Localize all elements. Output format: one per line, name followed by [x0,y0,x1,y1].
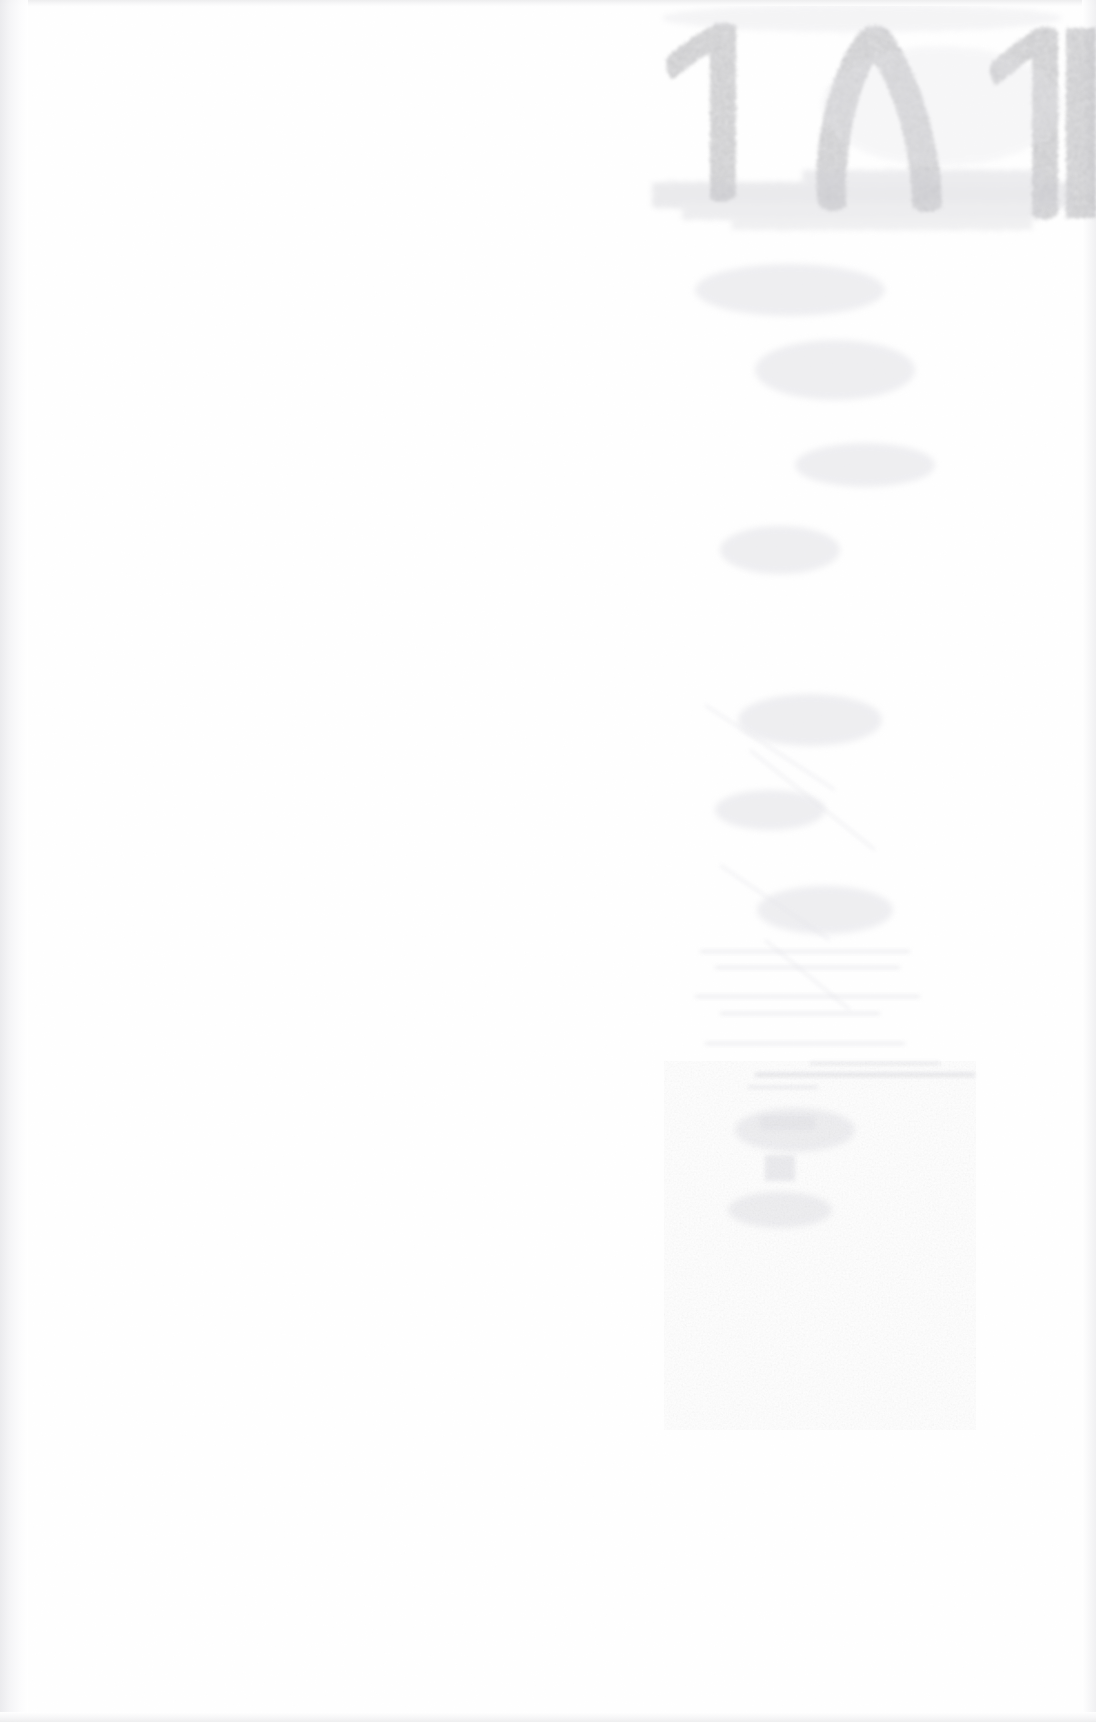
page-description: Blank scanned book page with faint ink s… [0,0,1,1]
paper-grain-texture [0,0,1096,1722]
showthrough-text-traces [660,250,1010,1430]
page-number-bleed-through [612,6,1096,246]
scan-edge-bottom [0,1712,1096,1722]
scan-edge-left [0,0,28,1722]
scan-edge-right [1082,0,1096,1722]
bleed-numeral-text: ۱۸۱ [0,0,1,1]
scanned-page: ۱۸۱ Blank scanned book page with faint i… [0,0,1096,1722]
scan-edge-top [0,0,1096,7]
